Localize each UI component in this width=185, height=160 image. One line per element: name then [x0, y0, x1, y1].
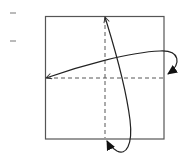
fold-diagram — [0, 0, 185, 160]
